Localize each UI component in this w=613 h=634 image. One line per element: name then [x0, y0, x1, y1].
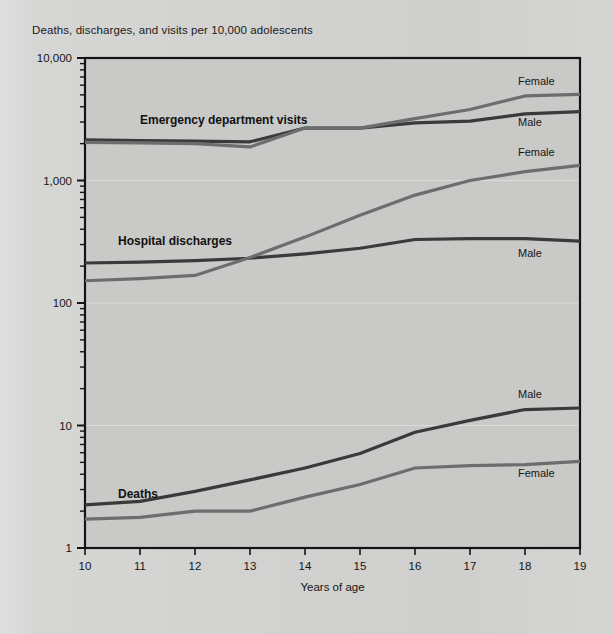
log-line-chart: 1101001,00010,00010111213141516171819Yea… [0, 0, 613, 634]
xtick-label-15: 15 [354, 560, 367, 572]
xtick-label-10: 10 [79, 560, 92, 572]
xtick-label-14: 14 [299, 560, 312, 572]
group-label-deaths: Deaths [118, 487, 158, 501]
group-label-emergency-department-visits: Emergency department visits [140, 113, 308, 127]
series-end-label-deaths-female: Female [518, 467, 555, 479]
series-end-label-hospital-discharges-female: Female [518, 146, 555, 158]
chart-canvas: 1101001,00010,00010111213141516171819Yea… [0, 0, 613, 634]
group-label-hospital-discharges: Hospital discharges [118, 234, 232, 248]
ytick-label-10: 10 [59, 420, 72, 432]
series-end-label-emergency-department-visits-female: Female [518, 75, 555, 87]
series-end-label-emergency-department-visits-male: Male [518, 116, 542, 128]
ytick-label-1: 1 [66, 542, 72, 554]
xtick-label-18: 18 [519, 560, 532, 572]
xtick-label-13: 13 [244, 560, 257, 572]
ytick-label-100: 100 [53, 297, 72, 309]
series-end-label-deaths-male: Male [518, 388, 542, 400]
xtick-label-12: 12 [189, 560, 202, 572]
xtick-label-16: 16 [409, 560, 422, 572]
xtick-label-11: 11 [134, 560, 146, 572]
x-axis-title: Years of age [300, 581, 364, 593]
ytick-label-1000: 1,000 [43, 175, 72, 187]
ytick-label-10000: 10,000 [37, 52, 72, 64]
xtick-label-17: 17 [464, 560, 477, 572]
series-end-label-hospital-discharges-male: Male [518, 247, 542, 259]
xtick-label-19: 19 [574, 560, 587, 572]
